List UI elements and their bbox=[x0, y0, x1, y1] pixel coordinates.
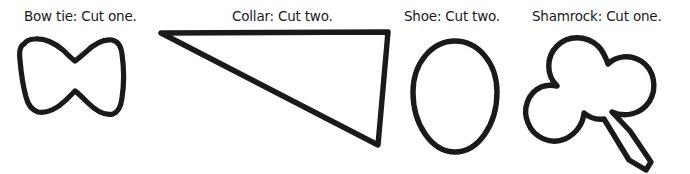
template-shapes-canvas bbox=[0, 0, 690, 174]
shamrock-shape bbox=[526, 38, 654, 170]
shoe-shape bbox=[413, 41, 497, 152]
bow-tie-shape bbox=[20, 39, 124, 115]
collar-shape bbox=[161, 32, 388, 145]
craft-template-sheet: Bow tie: Cut one. Collar: Cut two. Shoe:… bbox=[0, 0, 690, 174]
